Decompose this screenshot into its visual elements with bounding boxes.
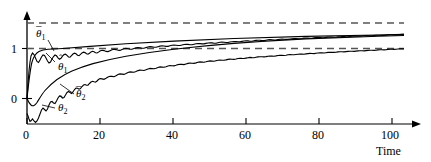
curve-label-theta-hat-1: ˆ θ 1 [58, 61, 67, 75]
theta-hat-1-glyph: ˆ θ [58, 61, 63, 72]
theta-bar-2-glyph: – θ [76, 88, 81, 99]
plot-figure: 1 0 0 20 40 60 80 100 Time – θ 1 ˆ θ 1 ˆ… [0, 0, 431, 162]
theta-hat-1-subscript: 1 [63, 66, 67, 75]
curve-label-theta-hat-2: ˆ θ 2 [58, 102, 67, 116]
curve-label-theta-bar-2: – θ 2 [76, 88, 85, 102]
theta-hat-2-glyph: ˆ θ [58, 102, 63, 113]
theta-bar-1-subscript: 1 [41, 33, 45, 42]
annotation-leaders [0, 0, 431, 162]
theta-bar-1-glyph: – θ [36, 28, 41, 39]
theta-bar-2-subscript: 2 [81, 93, 85, 102]
theta-hat-2-subscript: 2 [63, 107, 67, 116]
curve-label-theta-bar-1: – θ 1 [36, 28, 45, 42]
